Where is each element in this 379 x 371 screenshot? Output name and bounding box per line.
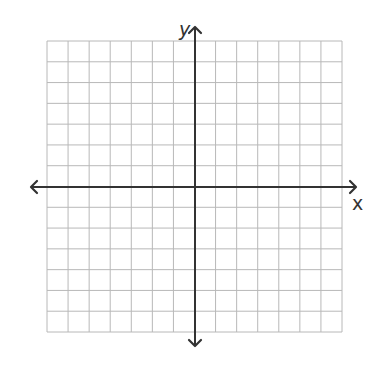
y-axis-label: y: [178, 18, 191, 40]
axes: [31, 27, 356, 346]
coordinate-plane: y x: [0, 0, 379, 371]
x-axis-label: x: [352, 192, 363, 214]
